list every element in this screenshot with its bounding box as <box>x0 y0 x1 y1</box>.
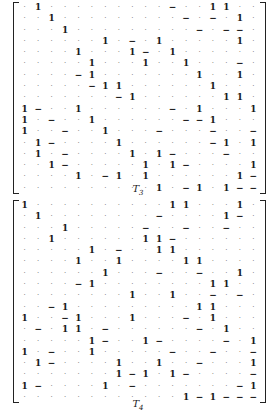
matrix-cell: · <box>126 58 139 69</box>
matrix-cell: 1 <box>45 234 58 245</box>
matrix-cell: 1 <box>152 234 165 245</box>
matrix-cell: · <box>112 58 125 69</box>
matrix-cell: 1 <box>58 25 71 36</box>
matrix-row: ·1········−····1−· <box>18 211 260 222</box>
matrix-cell: · <box>139 211 152 222</box>
matrix-row: ···1·····−··−··−·· <box>18 223 260 234</box>
matrix-cell: − <box>45 115 58 126</box>
matrix-cell: · <box>58 290 71 301</box>
matrix-cell: 1 <box>58 302 71 313</box>
matrix-cell: 1 <box>72 171 85 182</box>
matrix-cell: 1 <box>112 171 125 182</box>
matrix-cell: · <box>112 223 125 234</box>
matrix-cell: · <box>193 92 206 103</box>
matrix-cell: · <box>179 245 192 256</box>
matrix-cell: · <box>220 245 233 256</box>
matrix-cell: · <box>31 234 44 245</box>
matrix-cell: · <box>247 302 260 313</box>
matrix-cell: 1 <box>193 302 206 313</box>
matrix-cell: 1 <box>18 381 31 392</box>
matrix-cell: · <box>31 200 44 211</box>
matrix-cell: · <box>193 211 206 222</box>
matrix-cell: · <box>166 324 179 335</box>
matrix-cell: · <box>45 70 58 81</box>
matrix-cell: − <box>72 70 85 81</box>
matrix-cell: · <box>220 126 233 137</box>
matrix-cell: · <box>166 268 179 279</box>
matrix-cell: · <box>193 245 206 256</box>
matrix-cell: · <box>31 25 44 36</box>
matrix-cell: · <box>58 81 71 92</box>
matrix-cell: · <box>152 104 165 115</box>
matrix-cell: · <box>58 381 71 392</box>
matrix-cell: − <box>152 336 165 347</box>
matrix-cell: · <box>193 369 206 380</box>
matrix-cell: · <box>18 234 31 245</box>
matrix-cell: 1 <box>247 381 260 392</box>
matrix-cell: · <box>152 313 165 324</box>
matrix-row: ·1·········−··11·· <box>18 2 260 13</box>
matrix-cell: · <box>166 256 179 267</box>
matrix-cell: · <box>45 369 58 380</box>
matrix-cell: · <box>247 149 260 160</box>
matrix-cell: · <box>179 324 192 335</box>
matrix-cell: · <box>45 268 58 279</box>
matrix-cell: · <box>166 92 179 103</box>
matrix-cell: · <box>45 47 58 58</box>
matrix-cell: · <box>85 381 98 392</box>
matrix-cell: 1 <box>206 2 219 13</box>
matrix-cell: · <box>152 200 165 211</box>
matrix-cell: · <box>233 324 246 335</box>
matrix-cell: · <box>31 58 44 69</box>
matrix-cell: − <box>193 25 206 36</box>
matrix-cell: · <box>206 160 219 171</box>
matrix-cell: · <box>193 126 206 137</box>
matrix-row: ··1−·····1·1−····1 <box>18 160 260 171</box>
matrix-cell: · <box>31 336 44 347</box>
matrix-cell: − <box>99 324 112 335</box>
matrix-row: 1−····1·−·······−1 <box>18 381 260 392</box>
right-bracket <box>260 2 266 194</box>
matrix-cell: · <box>179 211 192 222</box>
matrix-cell: · <box>233 160 246 171</box>
matrix-cell: · <box>139 245 152 256</box>
matrix-cell: · <box>247 211 260 222</box>
matrix-cell: · <box>72 369 85 380</box>
matrix-cell: − <box>233 25 246 36</box>
matrix-cell: · <box>166 211 179 222</box>
matrix-cell: · <box>45 58 58 69</box>
matrix-cell: · <box>58 104 71 115</box>
matrix-cell: · <box>72 36 85 47</box>
matrix-cell: − <box>247 126 260 137</box>
matrix-cell: · <box>179 2 192 13</box>
matrix-cell: 1 <box>31 211 44 222</box>
matrix-cell: · <box>152 279 165 290</box>
matrix-cell: · <box>99 211 112 222</box>
matrix-cell: · <box>31 245 44 256</box>
matrix-cell: · <box>126 211 139 222</box>
matrix-cell: · <box>126 115 139 126</box>
matrix-cell: · <box>139 138 152 149</box>
matrix-cell: · <box>139 347 152 358</box>
matrix-cell: · <box>220 160 233 171</box>
matrix-cell: 1 <box>85 245 98 256</box>
matrix-cell: · <box>152 290 165 301</box>
matrix-cell: 1 <box>18 200 31 211</box>
matrix-cell: · <box>126 70 139 81</box>
matrix-cell: 1 <box>179 200 192 211</box>
matrix-cell: · <box>166 358 179 369</box>
matrix-cell: · <box>31 302 44 313</box>
matrix-cell: · <box>247 313 260 324</box>
matrix-cell: 1 <box>233 36 246 47</box>
matrix-cell: · <box>18 302 31 313</box>
matrix-cell: − <box>152 268 165 279</box>
matrix-cell: · <box>166 70 179 81</box>
matrix-cell: − <box>233 58 246 69</box>
matrix-cell: · <box>58 268 71 279</box>
matrix-row: ······1·−·1·····1· <box>18 36 260 47</box>
matrix-cell: · <box>58 171 71 182</box>
matrix-cell: − <box>247 347 260 358</box>
matrix-cell: · <box>247 200 260 211</box>
matrix-cell: · <box>112 47 125 58</box>
matrix-cell: · <box>166 138 179 149</box>
